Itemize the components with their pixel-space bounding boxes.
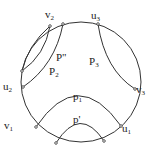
label-v1: v1 — [4, 119, 14, 133]
vertex-point-v1 — [35, 126, 38, 129]
vertex-point-pbr — [103, 140, 106, 143]
diagram-canvas: v2u3P"P3P2u2v3p1v1p'u1 — [0, 0, 156, 155]
vertex-point-u3 — [97, 23, 100, 26]
label-P2: P2 — [49, 65, 59, 79]
label-u1: u1 — [122, 122, 132, 136]
label-pp: p' — [73, 113, 81, 125]
vertex-point-v2 — [49, 25, 52, 28]
label-u3: u3 — [91, 9, 101, 23]
label-P3: P3 — [89, 55, 99, 69]
vertex-point-v2b — [62, 23, 65, 26]
vertex-point-u2 — [22, 86, 25, 89]
points-group — [21, 23, 137, 145]
labels-group: v2u3P"P3P2u2v3p1v1p'u1 — [3, 8, 146, 136]
label-v3: v3 — [136, 83, 146, 97]
vertex-point-pL — [21, 70, 24, 73]
label-v2: v2 — [45, 8, 55, 22]
label-p1: p1 — [73, 90, 83, 104]
vertex-point-pb — [55, 142, 58, 145]
label-u2: u2 — [3, 80, 13, 94]
label-Ppp: P" — [56, 51, 67, 63]
